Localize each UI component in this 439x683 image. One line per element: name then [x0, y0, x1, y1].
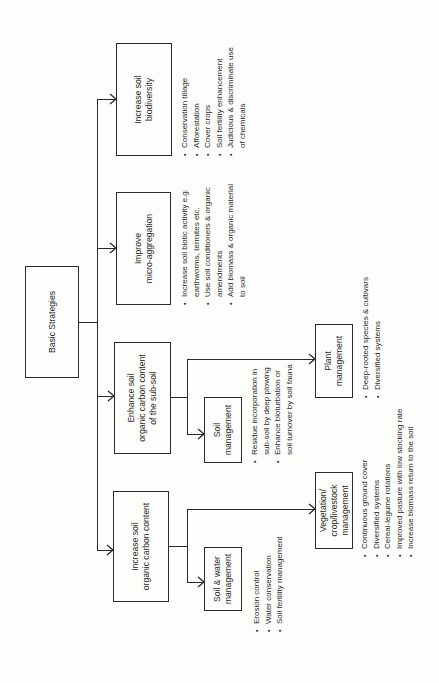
bullet-list-soil-management: Residue incorporation in sub-soil by dee…: [249, 364, 295, 463]
bullet-item: Erosion control: [251, 536, 263, 632]
root-label: Basic Strategies: [47, 291, 58, 353]
connector-soc-branch: [169, 546, 187, 547]
main-spine: [97, 99, 98, 551]
bullet-item: Conservation tillage: [179, 47, 191, 156]
bullet-item: Diversified systems: [372, 277, 384, 398]
bullet-item: Continuous ground cover: [359, 408, 371, 557]
bullet-list-vegetation: Continuous ground cover Diversified syst…: [359, 408, 417, 557]
bullet-list-plant-management: Deep-rooted species & cultivars Diversif…: [360, 277, 383, 398]
strategy-label: Improve micro-aggregation: [133, 214, 155, 283]
bullet-item: Water conservation: [263, 536, 275, 632]
bullet-item: Soil fertility management: [274, 536, 286, 632]
bullet-item: Judicious & discriminate use of chemical…: [225, 47, 248, 156]
bullet-item: Increase biomass return to the soil: [405, 408, 417, 557]
bullet-item: Cover crops: [202, 47, 214, 156]
sub-label: Vegetation/ crop/livestock management: [318, 484, 351, 536]
sub-label: Soil & water management: [212, 554, 234, 604]
flowchart-canvas: Basic Strategies Increase soil biodivers…: [0, 0, 439, 683]
strategy-box-biodiversity: Increase soil biodiversity: [116, 43, 172, 156]
sub-box-soil-management: Soil management: [204, 397, 242, 463]
bullet-item: Add biomass & organic material to soil: [225, 184, 248, 305]
strategy-label: Increase soil organic carbon content: [130, 503, 152, 590]
bullet-list-biodiversity: Conservation tillage Afforestation Cover…: [179, 47, 248, 156]
bullet-list-soil-water: Erosion control Water conservation Soil …: [251, 536, 286, 632]
strategy-box-micro-aggregation: Improve micro-aggregation: [116, 192, 171, 305]
strategy-label: Enhance soil organic carbon content of t…: [126, 354, 159, 441]
sub-label: Plant management: [323, 336, 345, 386]
sub-box-plant-management: Plant management: [315, 324, 353, 398]
bullet-item: Diversified systems: [371, 408, 383, 557]
sub-box-vegetation-management: Vegetation/ crop/livestock management: [315, 472, 353, 549]
bullet-item: Cereal-legume rotations: [382, 408, 394, 557]
strategy-box-enhance-subsoil: Enhance soil organic carbon content of t…: [114, 342, 171, 454]
sub-spine-soc: [187, 509, 188, 583]
root-box-basic-strategies: Basic Strategies: [25, 266, 79, 378]
bullet-item: Residue incorporation in sub-soil by dee…: [249, 364, 272, 463]
connector-enhance-branch: [171, 397, 187, 398]
sub-label: Soil management: [212, 405, 234, 455]
drop-plant-management: [187, 359, 315, 360]
strategy-label: Increase soil biodiversity: [133, 75, 155, 123]
sub-spine-enhance: [187, 359, 188, 435]
bullet-item: Use soil conditioners & organic amendmen…: [202, 184, 225, 305]
connector-root-stub: [79, 322, 97, 323]
bullet-item: Increase soil biotic activity e.g. earth…: [179, 184, 202, 305]
bullet-item: Improved pasture with low stocking rate: [394, 408, 406, 557]
sub-box-soil-water-management: Soil & water management: [204, 547, 242, 611]
bullet-item: Soil fertility enhancement: [214, 47, 226, 156]
strategy-box-increase-soc: Increase soil organic carbon content: [113, 491, 169, 602]
drop-vegetation: [187, 509, 315, 510]
bullet-item: Deep-rooted species & cultivars: [360, 277, 372, 398]
bullet-list-micro-aggregation: Increase soil biotic activity e.g. earth…: [179, 184, 248, 305]
bullet-item: Afforestation: [191, 47, 203, 156]
bullet-item: Enhance bioturbation or soil turnover by…: [272, 364, 295, 463]
